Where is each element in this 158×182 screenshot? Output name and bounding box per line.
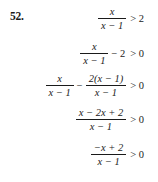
fraction-denominator: x − 1 [92,86,120,98]
derivation-step-2: x x − 1 − 2 > 0 [79,41,144,66]
fraction-left-3: x x − 1 [46,73,74,98]
fraction-numerator: 2(x − 1) [86,73,127,85]
fraction-right-3: 2(x − 1) x − 1 [86,73,127,98]
fraction-numerator: x [89,41,100,53]
fraction-denominator: x − 1 [80,54,108,66]
relation-operator: > 0 [127,48,144,59]
fraction-left-4: x − 2x + 2 x − 1 [76,107,127,132]
relation-operator: > 0 [127,149,144,160]
fraction-left-5: −x + 2 x − 1 [91,142,126,167]
arithmetic-operator: − 2 [109,48,127,59]
fraction-left-2: x x − 1 [80,41,108,66]
relation-operator: > 2 [127,13,144,24]
derivation-step-1: x x − 1 > 2 [97,6,144,31]
fraction-numerator: x − 2x + 2 [76,107,127,119]
fraction-denominator: x − 1 [98,19,126,31]
fraction-denominator: x − 1 [46,86,74,98]
fraction-numerator: −x + 2 [91,142,126,154]
fraction-numerator: x [54,73,65,85]
derivation-step-3: x x − 1 − 2(x − 1) x − 1 > 0 [45,73,144,98]
fraction-left-1: x x − 1 [98,6,126,31]
fraction-denominator: x − 1 [94,155,122,167]
relation-operator: > 0 [127,114,144,125]
math-problem-block: 52. x x − 1 > 2 x x − 1 − 2 > 0 x [0,0,158,182]
fraction-numerator: x [107,6,118,18]
derivation-step-4: x − 2x + 2 x − 1 > 0 [75,107,144,132]
fraction-denominator: x − 1 [87,120,115,132]
arithmetic-operator: − [75,80,85,91]
derivation-step-5: −x + 2 x − 1 > 0 [90,142,144,167]
derivation-steps-list: x x − 1 > 2 x x − 1 − 2 > 0 x x − 1 − [0,0,158,182]
relation-operator: > 0 [127,80,144,91]
